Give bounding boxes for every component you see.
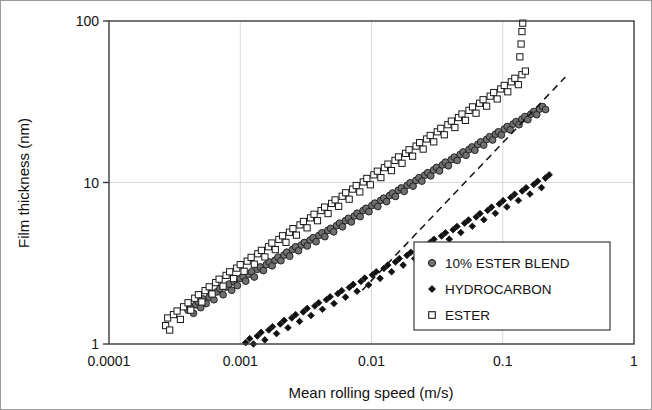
data-point <box>417 140 423 146</box>
data-point <box>462 117 468 123</box>
data-point <box>491 89 497 95</box>
data-point <box>331 300 338 307</box>
data-point <box>522 68 528 74</box>
data-point <box>448 118 454 124</box>
data-point <box>364 175 370 181</box>
data-point <box>285 324 292 331</box>
data-point <box>283 239 289 245</box>
data-point <box>209 291 215 297</box>
data-point <box>538 184 545 191</box>
data-point <box>343 190 349 196</box>
data-point <box>469 223 476 230</box>
data-point <box>494 96 500 102</box>
data-point <box>248 254 254 260</box>
data-point <box>174 308 180 314</box>
x-tick-label: 0.0001 <box>88 353 131 369</box>
data-point <box>480 97 486 103</box>
figure-container: 0.00010.0010.010.11110100 10% ESTER BLEN… <box>0 0 652 410</box>
data-point <box>473 110 479 116</box>
data-point <box>515 82 521 88</box>
data-point <box>227 269 233 275</box>
data-point <box>300 218 306 224</box>
legend-item-label[interactable]: 10% ESTER BLEND <box>445 256 570 271</box>
data-point <box>441 132 447 138</box>
legend-item-label[interactable]: HYDROCARBON <box>445 282 552 297</box>
y-tick-label: 1 <box>91 336 99 352</box>
chart-legend: 10% ESTER BLENDHYDROCARBONESTER <box>414 242 610 330</box>
legend-item-label[interactable]: ESTER <box>445 308 490 323</box>
data-point <box>272 247 278 253</box>
data-point <box>365 282 372 289</box>
data-point <box>354 288 361 295</box>
data-point <box>399 160 405 166</box>
data-point <box>206 284 212 290</box>
data-point <box>231 276 237 282</box>
data-point <box>258 247 264 253</box>
data-point <box>216 276 222 282</box>
data-point <box>542 106 549 113</box>
data-point <box>346 196 352 202</box>
data-point <box>167 327 173 333</box>
data-point <box>321 204 327 210</box>
data-point <box>406 147 412 153</box>
data-point <box>286 253 293 260</box>
data-point <box>385 161 391 167</box>
data-point <box>195 292 201 298</box>
data-point <box>378 175 384 181</box>
data-point <box>388 167 394 173</box>
data-point <box>481 216 488 223</box>
data-point <box>459 111 465 117</box>
data-point <box>501 82 507 88</box>
data-point <box>505 89 511 95</box>
data-point <box>262 254 268 260</box>
data-point <box>269 240 275 246</box>
data-point <box>336 203 342 209</box>
data-point <box>409 153 415 159</box>
data-point <box>357 189 363 195</box>
data-point <box>220 283 226 289</box>
data-point <box>518 41 524 47</box>
data-point <box>400 262 407 269</box>
y-tick-label: 10 <box>83 175 99 191</box>
data-point <box>279 233 285 239</box>
data-point <box>321 233 328 240</box>
data-point <box>199 299 205 305</box>
data-point <box>293 232 299 238</box>
data-point <box>234 282 241 289</box>
scatter-plot: 0.00010.0010.010.11110100 10% ESTER BLEN… <box>1 1 652 410</box>
data-point <box>311 211 317 217</box>
data-point <box>517 54 523 60</box>
data-point <box>377 275 384 282</box>
x-tick-label: 1 <box>630 353 638 369</box>
data-point <box>527 191 534 198</box>
x-axis-title: Mean rolling speed (m/s) <box>288 384 453 401</box>
data-point <box>332 197 338 203</box>
data-point <box>177 316 183 322</box>
x-tick-label: 0.01 <box>358 353 385 369</box>
data-point <box>427 132 433 138</box>
data-point <box>367 182 373 188</box>
data-point <box>512 75 518 81</box>
data-point <box>308 312 315 319</box>
data-point <box>273 330 280 337</box>
x-tick-label: 0.1 <box>493 353 513 369</box>
data-point <box>457 229 464 236</box>
data-point <box>241 268 247 274</box>
data-point <box>228 287 235 294</box>
data-point <box>251 274 258 281</box>
data-point <box>452 124 458 130</box>
data-point <box>469 104 475 110</box>
legend-marker-square-open <box>429 312 436 319</box>
data-point <box>304 225 310 231</box>
data-point <box>519 28 525 34</box>
data-point <box>342 294 349 301</box>
data-point <box>353 182 359 188</box>
data-point <box>188 307 194 313</box>
data-point <box>515 197 522 204</box>
y-axis-title: Film thickness (nm) <box>15 118 32 248</box>
data-point <box>438 125 444 131</box>
data-point <box>165 315 171 321</box>
data-point <box>290 226 296 232</box>
data-point <box>262 337 269 344</box>
y-tick-label: 100 <box>76 13 100 29</box>
